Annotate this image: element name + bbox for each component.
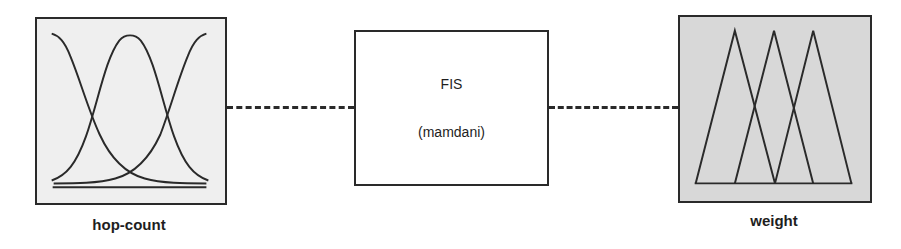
fis-name: FIS [356,76,547,92]
membership-function-high [54,34,207,184]
membership-function-high [775,31,851,184]
output-variable-weight[interactable] [678,15,872,203]
membership-function-medium [735,31,813,184]
gaussian-membership-plot [37,19,225,203]
triangular-membership-plot [680,17,870,201]
input-variable-hop-count[interactable] [35,17,227,205]
membership-function-medium [52,35,209,180]
fis-diagram: hop-count FIS (mamdani) weight [0,0,901,249]
membership-function-low [696,31,775,184]
fis-type: (mamdani) [356,124,547,140]
input-variable-label: hop-count [79,216,179,233]
connector-fis-to-output [549,106,678,109]
connector-input-to-fis [227,106,354,109]
output-variable-label: weight [724,212,824,229]
fis-system-block[interactable]: FIS (mamdani) [354,30,549,186]
